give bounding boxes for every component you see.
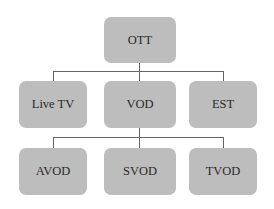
node-label: Live TV xyxy=(32,97,74,112)
connector-to-est xyxy=(223,71,224,81)
node-label: VOD xyxy=(126,97,153,112)
node-svod: SVOD xyxy=(104,148,176,195)
node-est: EST xyxy=(189,81,257,128)
node-label: OTT xyxy=(128,33,152,48)
connector-to-tvod xyxy=(223,137,224,148)
node-label: SVOD xyxy=(123,164,157,179)
connector-to-svod xyxy=(139,137,140,148)
connector-vod-down xyxy=(139,128,140,137)
node-tvod: TVOD xyxy=(189,148,257,195)
node-label: AVOD xyxy=(36,164,71,179)
node-label: TVOD xyxy=(206,164,241,179)
node-live-tv: Live TV xyxy=(19,81,87,128)
node-vod: VOD xyxy=(104,81,176,128)
connector-to-live-tv xyxy=(53,71,54,81)
connector-to-avod xyxy=(53,137,54,148)
ott-hierarchy-diagram: OTT Live TV VOD EST AVOD SVOD TVOD xyxy=(0,0,274,209)
node-ott: OTT xyxy=(104,17,176,63)
node-label: EST xyxy=(212,97,234,112)
node-avod: AVOD xyxy=(19,148,87,195)
connector-to-vod xyxy=(139,71,140,81)
